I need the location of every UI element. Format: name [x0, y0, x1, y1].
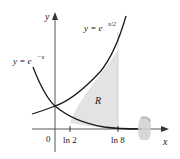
tick-label-ln2: ln 2 [63, 135, 77, 145]
rotation-icon [138, 117, 151, 140]
y-axis-arrow-icon [52, 12, 58, 20]
tick-label-ln8: ln 8 [111, 135, 125, 145]
x-axis-label: x [162, 136, 168, 147]
y-axis-label: y [44, 11, 50, 22]
x-axis-arrow-icon [161, 126, 169, 132]
region-label: R [94, 95, 101, 106]
svg-text:y = e: y = e [83, 23, 103, 33]
svg-text:y = e: y = e [12, 56, 32, 66]
region-r [70, 50, 118, 128]
origin-label: 0 [46, 134, 51, 144]
svg-text:−x: −x [37, 53, 44, 60]
decay-curve-label: y = e −x [12, 53, 44, 66]
growth-curve-label: y = e x/2 [83, 20, 117, 33]
svg-text:x/2: x/2 [107, 20, 117, 27]
volume-of-revolution-diagram: y x 0 ln 2 ln 8 R y = e x/2 y = e −x [0, 0, 180, 159]
